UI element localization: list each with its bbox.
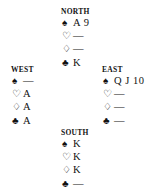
heart-suit-symbol: ♡ xyxy=(12,87,23,100)
diamond-suit-symbol: ♢ xyxy=(12,100,23,113)
hand-east-hearts-cards: — xyxy=(114,87,125,100)
hand-east-hearts-row: ♡ — xyxy=(103,87,144,100)
spade-suit-symbol: ♠ xyxy=(62,137,73,150)
hand-east-label: EAST xyxy=(102,65,144,74)
hand-south-hearts-row: ♡ K xyxy=(62,150,89,163)
heart-suit-symbol: ♡ xyxy=(103,87,114,100)
diamond-suit-symbol: ♢ xyxy=(62,42,73,55)
hand-south-clubs-row: ♣ — xyxy=(62,177,89,190)
club-suit-symbol: ♣ xyxy=(62,177,73,190)
hand-south-hearts-cards: K xyxy=(73,150,81,163)
hand-north-clubs-cards: K xyxy=(73,56,81,69)
hand-east-diamonds-cards: — xyxy=(114,100,125,113)
club-suit-symbol: ♣ xyxy=(12,114,23,127)
hand-east-spades-cards: Q J 10 xyxy=(114,74,144,87)
hand-north-label: NORTH xyxy=(61,7,90,16)
hand-north-spades-cards: A 9 xyxy=(73,16,89,29)
hand-east: EAST ♠ Q J 10 ♡ — ♢ — ♣ — xyxy=(102,65,144,127)
hand-north: NORTH ♠ A 9 ♡ — ♢ — ♣ K xyxy=(61,7,90,69)
hand-north-spades-row: ♠ A 9 xyxy=(62,16,90,29)
hand-west-hearts-row: ♡ A xyxy=(12,87,34,100)
hand-east-clubs-row: ♣ — xyxy=(103,114,144,127)
hand-east-diamonds-row: ♢ — xyxy=(103,100,144,113)
hand-south-label: SOUTH xyxy=(61,128,89,137)
spade-suit-symbol: ♠ xyxy=(62,16,73,29)
hand-north-diamonds-row: ♢ — xyxy=(62,42,90,55)
club-suit-symbol: ♣ xyxy=(103,114,114,127)
hand-south-diamonds-cards: K xyxy=(73,163,81,176)
hand-north-hearts-cards: — xyxy=(73,29,84,42)
heart-suit-symbol: ♡ xyxy=(62,29,73,42)
hand-east-spades-row: ♠ Q J 10 xyxy=(103,74,144,87)
hand-south-diamonds-row: ♢ K xyxy=(62,163,89,176)
hand-south-spades-cards: K xyxy=(73,137,81,150)
hand-west-label: WEST xyxy=(11,65,34,74)
hand-north-clubs-row: ♣ K xyxy=(62,56,90,69)
diamond-suit-symbol: ♢ xyxy=(62,163,73,176)
hand-south-spades-row: ♠ K xyxy=(62,137,89,150)
hand-west-clubs-cards: A xyxy=(23,114,31,127)
bridge-hand-diagram: NORTH ♠ A 9 ♡ — ♢ — ♣ K WEST ♠ — ♡ A ♢ xyxy=(0,0,161,196)
heart-suit-symbol: ♡ xyxy=(62,150,73,163)
hand-west-spades-row: ♠ — xyxy=(12,74,34,87)
hand-north-diamonds-cards: — xyxy=(73,42,84,55)
hand-north-hearts-row: ♡ — xyxy=(62,29,90,42)
hand-west-hearts-cards: A xyxy=(23,87,31,100)
spade-suit-symbol: ♠ xyxy=(103,74,114,87)
hand-west-clubs-row: ♣ A xyxy=(12,114,34,127)
hand-west-spades-cards: — xyxy=(23,74,34,87)
club-suit-symbol: ♣ xyxy=(62,56,73,69)
hand-west-diamonds-cards: A xyxy=(23,100,31,113)
hand-south: SOUTH ♠ K ♡ K ♢ K ♣ — xyxy=(61,128,89,190)
hand-west: WEST ♠ — ♡ A ♢ A ♣ A xyxy=(11,65,34,127)
spade-suit-symbol: ♠ xyxy=(12,74,23,87)
hand-east-clubs-cards: — xyxy=(114,114,125,127)
hand-west-diamonds-row: ♢ A xyxy=(12,100,34,113)
diamond-suit-symbol: ♢ xyxy=(103,100,114,113)
hand-south-clubs-cards: — xyxy=(73,177,84,190)
